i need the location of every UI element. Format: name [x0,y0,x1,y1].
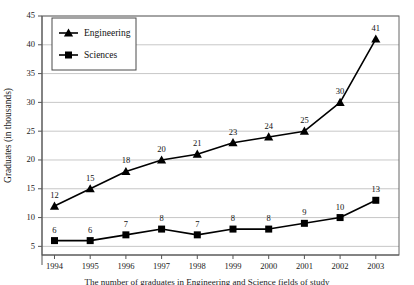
data-label-sciences-2003: 13 [372,184,381,194]
data-label-sciences-2002: 10 [336,202,345,212]
x-tick-label: 1996 [117,261,134,271]
data-point-sciences-2003 [372,197,379,204]
y-tick-label: 45 [27,10,36,20]
x-tick-label: 2000 [260,261,277,271]
x-tick-label: 1998 [189,261,206,271]
y-tick-label: 10 [27,212,36,222]
data-label-sciences-1998: 7 [195,219,199,229]
x-tick-label: 1994 [46,261,64,271]
data-label-sciences-1999: 8 [231,213,235,223]
x-tick-label: 1997 [153,261,170,271]
data-point-sciences-1996 [122,231,129,238]
legend-box [52,18,136,70]
y-axis-title: Graduates (in thousands) [3,88,14,183]
y-tick-label: 40 [27,39,36,49]
y-tick-label: 25 [27,126,36,136]
data-point-sciences-1997 [158,226,165,233]
data-label-engineering-1994: 12 [50,190,59,200]
line-chart: 5101520253035404519941995199619971998199… [0,0,414,285]
chart-container: 5101520253035404519941995199619971998199… [0,0,414,285]
data-point-sciences-2000 [265,226,272,233]
x-tick-label: 2001 [296,261,313,271]
data-label-engineering-1999: 23 [229,127,238,137]
data-point-sciences-2002 [337,214,344,221]
data-point-engineering-2002 [335,98,344,106]
data-label-engineering-1995: 15 [86,173,95,183]
data-label-sciences-2001: 9 [302,207,306,217]
y-tick-label: 35 [27,68,36,78]
data-label-sciences-1994: 6 [52,225,56,235]
data-label-engineering-1998: 21 [193,138,202,148]
data-label-engineering-1997: 20 [157,144,166,154]
legend-label-sciences: Sciences [84,50,118,60]
figure-caption: The number of graduates in Engineering a… [0,278,414,285]
data-label-sciences-1995: 6 [88,225,92,235]
y-tick-label: 15 [27,183,36,193]
x-tick-label: 1995 [82,261,99,271]
data-label-engineering-2002: 30 [336,86,345,96]
series-line-sciences [55,200,376,240]
figure-caption-strip: The number of graduates in Engineering a… [0,278,414,285]
data-label-sciences-1996: 7 [124,219,128,229]
data-label-sciences-1997: 8 [159,213,163,223]
x-tick-label: 1999 [224,261,241,271]
y-tick-label: 30 [27,97,36,107]
x-tick-label: 2003 [367,261,384,271]
data-point-sciences-1999 [229,226,236,233]
data-point-sciences-1998 [194,231,201,238]
y-tick-label: 20 [27,154,36,164]
data-label-engineering-2000: 24 [264,121,273,131]
data-label-sciences-2000: 8 [267,213,271,223]
data-point-engineering-1995 [86,184,95,192]
legend-label-engineering: Engineering [84,28,131,38]
y-tick-label: 5 [31,241,35,251]
data-point-sciences-1994 [51,237,58,244]
x-tick-label: 2002 [332,261,349,271]
data-label-engineering-2001: 25 [300,115,309,125]
data-point-sciences-1995 [87,237,94,244]
data-label-engineering-1996: 18 [122,155,131,165]
data-point-engineering-2003 [371,34,380,42]
data-point-sciences-2001 [301,220,308,227]
data-label-engineering-2003: 41 [372,23,381,33]
legend-marker-sciences [65,52,72,59]
data-point-engineering-1994 [50,201,59,209]
